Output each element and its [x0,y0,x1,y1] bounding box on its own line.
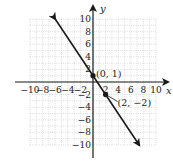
y-tick-label: 4 [85,52,91,62]
x-tick-label: −8 [36,85,50,95]
y-tick-label: −10 [72,140,91,150]
x-tick-label: 6 [128,85,134,95]
y-tick-label: 10 [80,14,92,24]
x-axis-label: x [166,85,172,96]
axes [15,6,168,158]
point-marker [103,92,108,97]
y-tick-label: −6 [78,115,92,125]
y-tick-label: 6 [85,39,91,49]
x-tick-label: 10 [150,85,162,95]
x-tick-label: 4 [115,85,121,95]
y-tick-label: −2 [78,90,91,100]
coordinate-plane: −10−8−6−4−2246810108642−2−4−6−8−10 (0, 1… [0,0,173,162]
y-tick-label: −4 [78,102,92,112]
point-label: (0, 1) [96,68,122,79]
x-tick-label: 8 [141,85,147,95]
point-marker [90,73,95,78]
y-axis-label: y [99,3,106,14]
y-tick-label: −8 [78,127,92,137]
y-tick-label: 8 [85,27,91,37]
x-tick-label: −6 [49,85,63,95]
x-tick-label: −4 [61,85,75,95]
point-label: (2, −2) [118,97,152,108]
